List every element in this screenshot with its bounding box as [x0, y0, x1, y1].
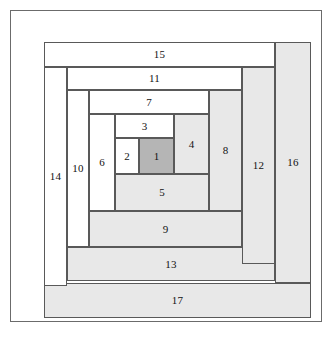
- quilt-piece-label: 13: [165, 259, 176, 270]
- figure-frame: 1234567891011121314151617: [10, 10, 322, 322]
- quilt-piece-7: 7: [89, 90, 209, 114]
- quilt-piece-6: 6: [89, 114, 115, 211]
- quilt-piece-label: 16: [287, 157, 298, 168]
- quilt-piece-label: 9: [163, 224, 169, 235]
- quilt-piece-4: 4: [174, 114, 209, 174]
- quilt-piece-label: 14: [50, 171, 61, 182]
- quilt-piece-label: 4: [189, 139, 195, 150]
- quilt-piece-label: 2: [124, 151, 130, 162]
- quilt-piece-label: 6: [99, 157, 105, 168]
- quilt-piece-9: 9: [89, 211, 242, 247]
- quilt-piece-2: 2: [115, 138, 139, 174]
- quilt-piece-1: 1: [139, 138, 174, 174]
- quilt-piece-label: 10: [72, 163, 83, 174]
- quilt-piece-14: 14: [44, 67, 67, 286]
- quilt-piece-3: 3: [115, 114, 174, 138]
- quilt-piece-10: 10: [67, 90, 89, 247]
- quilt-piece-label: 1: [154, 151, 160, 162]
- quilt-block-diagram: 1234567891011121314151617: [0, 0, 334, 344]
- quilt-piece-label: 11: [149, 73, 160, 84]
- quilt-piece-16: 16: [275, 42, 311, 283]
- quilt-piece-label: 7: [146, 97, 152, 108]
- quilt-piece-5: 5: [115, 174, 209, 211]
- quilt-piece-label: 12: [253, 160, 264, 171]
- quilt-piece-label: 17: [172, 295, 183, 306]
- quilt-piece-label: 5: [159, 187, 165, 198]
- quilt-piece-label: 15: [154, 49, 165, 60]
- quilt-piece-11: 11: [67, 67, 242, 90]
- quilt-piece-label: 3: [142, 121, 148, 132]
- log-cabin-block: 1234567891011121314151617: [44, 42, 311, 318]
- quilt-piece-17: 17: [44, 283, 311, 318]
- quilt-piece-12: 12: [242, 67, 275, 264]
- quilt-piece-label: 8: [223, 145, 229, 156]
- quilt-piece-8: 8: [209, 90, 242, 211]
- quilt-piece-15: 15: [44, 42, 275, 67]
